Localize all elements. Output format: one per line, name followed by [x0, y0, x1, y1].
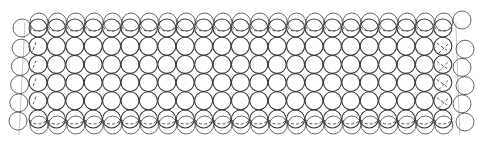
hidden-edge-dash: [437, 98, 448, 108]
ring: [176, 55, 194, 73]
ring: [323, 92, 341, 110]
ring: [139, 37, 157, 55]
ring: [305, 55, 323, 73]
ring: [379, 74, 397, 92]
ring: [360, 37, 378, 55]
ring: [47, 55, 65, 73]
circle-grid-drawing: [0, 0, 477, 159]
ring: [158, 55, 176, 73]
ring: [397, 92, 415, 110]
ring: [342, 37, 360, 55]
ring: [360, 55, 378, 73]
ring: [415, 74, 433, 92]
ring: [360, 74, 378, 92]
ring: [66, 55, 84, 73]
hidden-edge-arc: [416, 120, 432, 124]
ring: [47, 37, 65, 55]
hidden-edge-dash: [32, 60, 36, 70]
hidden-edge-dash: [437, 61, 448, 71]
ring: [287, 74, 305, 92]
ring: [84, 55, 102, 73]
hidden-edge-arc: [435, 120, 451, 124]
ring: [268, 55, 286, 73]
ring: [231, 37, 249, 55]
ring: [434, 92, 452, 110]
circle-grid-svg: [0, 0, 477, 159]
hidden-edge-arc: [288, 120, 304, 124]
ring: [397, 37, 415, 55]
edge-ring-right: [453, 95, 471, 113]
ring: [139, 92, 157, 110]
ring: [305, 74, 323, 92]
ring: [250, 74, 268, 92]
ring: [305, 92, 323, 110]
ring: [397, 74, 415, 92]
ring: [360, 92, 378, 110]
edge-ring-left: [13, 19, 31, 37]
ring: [103, 37, 121, 55]
ring: [29, 55, 47, 73]
ring: [121, 55, 139, 73]
hidden-edge-arc: [30, 120, 46, 124]
edge-ring-left: [10, 94, 28, 112]
ring: [434, 37, 452, 55]
ring: [287, 37, 305, 55]
ring: [415, 37, 433, 55]
hidden-edge-dash: [437, 80, 448, 90]
ring: [268, 92, 286, 110]
hidden-edge-arc: [85, 120, 101, 124]
ring: [84, 74, 102, 92]
ring: [121, 74, 139, 92]
ring: [176, 37, 194, 55]
edge-ring-left: [12, 39, 30, 57]
ring: [250, 37, 268, 55]
ring: [379, 37, 397, 55]
hidden-edge-arc: [104, 120, 120, 124]
ring: [195, 92, 213, 110]
ring: [268, 74, 286, 92]
ring: [213, 37, 231, 55]
hidden-edge-arc: [67, 120, 83, 124]
hidden-edge-arc: [251, 120, 267, 124]
ring: [66, 92, 84, 110]
hidden-edge-arc: [214, 120, 230, 124]
ring: [415, 55, 433, 73]
ring: [434, 74, 452, 92]
hidden-edge-arc: [232, 120, 248, 124]
ring: [379, 55, 397, 73]
ring: [47, 92, 65, 110]
hidden-edge-arc: [343, 120, 359, 124]
ring: [323, 55, 341, 73]
ring: [139, 55, 157, 73]
ring: [415, 92, 433, 110]
ring: [287, 92, 305, 110]
ring: [231, 92, 249, 110]
ring: [29, 92, 47, 110]
ring: [195, 74, 213, 92]
edge-ring-right: [453, 58, 471, 76]
ring: [342, 92, 360, 110]
ring: [213, 55, 231, 73]
hidden-edge-dash: [32, 42, 36, 52]
ring: [176, 92, 194, 110]
hidden-edge-arc: [324, 120, 340, 124]
ring: [342, 55, 360, 73]
hidden-edge-dash: [32, 79, 36, 89]
ring: [66, 74, 84, 92]
hidden-edge-arc: [122, 120, 138, 124]
ring: [213, 74, 231, 92]
ring: [158, 37, 176, 55]
ring: [121, 37, 139, 55]
ring: [323, 74, 341, 92]
edge-ring-right: [453, 11, 471, 29]
hidden-edge-arc: [48, 120, 64, 124]
hidden-edge-dash: [32, 97, 36, 107]
ring: [158, 92, 176, 110]
edge-ring-left: [11, 76, 29, 94]
edge-ring-right: [456, 40, 474, 58]
hidden-edge-arc: [140, 120, 156, 124]
hidden-edge-dash: [437, 43, 448, 53]
hidden-edge-arc: [159, 120, 175, 124]
ring: [268, 37, 286, 55]
edge-ring-left: [11, 57, 29, 75]
